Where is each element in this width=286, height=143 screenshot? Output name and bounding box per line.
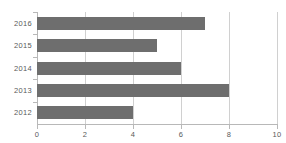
x-axis-tick-label: 4 <box>122 130 144 139</box>
bar <box>37 17 205 30</box>
bar <box>37 84 229 97</box>
x-axis-tick <box>229 125 230 129</box>
bar-chart: 20162015201420132012 0246810 <box>0 0 286 143</box>
y-axis-tick <box>33 57 37 58</box>
y-axis-tick <box>33 12 37 13</box>
x-axis-tick <box>37 125 38 129</box>
chart-title <box>0 0 286 2</box>
gridline <box>229 12 230 124</box>
x-axis-tick-label: 6 <box>170 130 192 139</box>
gridline <box>277 12 278 124</box>
x-axis-tick-label: 0 <box>26 130 48 139</box>
x-axis-tick <box>277 125 278 129</box>
y-axis-tick-label: 2013 <box>0 86 32 95</box>
bar <box>37 106 133 119</box>
y-axis-tick-label: 2014 <box>0 64 32 73</box>
plot-area <box>37 12 277 124</box>
y-axis-tick <box>33 102 37 103</box>
x-axis-tick <box>85 125 86 129</box>
x-axis-tick-label: 8 <box>218 130 240 139</box>
x-axis-tick-label: 2 <box>74 130 96 139</box>
y-axis-tick-label: 2012 <box>0 108 32 117</box>
x-axis-tick-label: 10 <box>266 130 286 139</box>
y-axis-tick-label: 2016 <box>0 19 32 28</box>
y-axis-tick <box>33 34 37 35</box>
x-axis-tick <box>181 125 182 129</box>
bar <box>37 62 181 75</box>
y-axis-tick <box>33 79 37 80</box>
bar <box>37 39 157 52</box>
x-axis-tick <box>133 125 134 129</box>
x-axis-line <box>37 124 278 125</box>
y-axis-tick-label: 2015 <box>0 41 32 50</box>
